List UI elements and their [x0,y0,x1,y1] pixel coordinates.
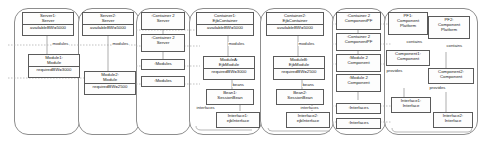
node-interface1-ejb[interactable]: Interface1: ejbInterface [216,112,260,128]
edge-label-modules-2: modules [112,42,129,46]
node-component1-line2: Component [387,57,429,62]
node-interface2-iface-line2: Interface [434,119,472,124]
node-module1[interactable]: Module1: Module requiredBW=3000 [28,54,80,78]
node-container-pf-a-line2: ComponentPF [337,19,380,24]
node-moduleB[interactable]: ModuleB: EjbModule requiredBW=2500 [273,56,325,80]
node-interface2-iface[interactable]: Interface2: Interface [433,112,473,128]
node-container-pf-b-line2: ComponentPF [337,40,380,45]
edge-label-beans-2: beans [302,83,314,87]
node-bean2[interactable]: Bean2: SessionBean [276,89,324,105]
node-interfaces-a-label: :Interfaces [337,106,380,111]
node-bean1[interactable]: Bean1: SessionBean [206,89,254,105]
node-module-comp-a[interactable]: :Module 2 Component [336,54,381,72]
node-moduleA-attr: requiredBW=3000 [204,68,254,75]
node-interface2-ejb-line2: ejbInterface [287,119,329,124]
node-pf2[interactable]: PF2: Component Platform [428,16,470,39]
node-module1-attr: requiredBW=3000 [29,66,79,73]
node-module2-attr: requiredBW=2500 [85,83,135,90]
node-module2[interactable]: Module2: Module requiredBW=2500 [84,71,136,95]
node-server1-attr: availableBW=5000 [23,24,73,31]
edge-label-modules-3: modules [228,42,245,46]
node-interface1-ejb-line2: ejbInterface [217,119,259,124]
node-container-server-a-line2: Server [142,19,184,24]
node-module-comp-a-line2: Component [337,61,380,66]
edge-label-provides-1: provides [386,69,403,73]
uml-diagram-canvas: Server1: Server availableBW=5000 modules… [0,0,489,143]
node-bean2-line2: SessionBean [277,96,323,101]
node-interface1-iface[interactable]: Interface1: Interface [391,97,431,113]
node-interface1-iface-line2: Interface [392,104,430,109]
node-container1[interactable]: Container1: EjbContainer availableBW=500… [196,12,254,36]
node-container-server-b-line2: Server [142,41,184,46]
node-container2[interactable]: Container2: EjbContainer availableBW=500… [266,12,324,36]
edge-label-contains-1: contains [406,40,423,44]
node-container2-attr: availableBW=5000 [267,24,323,31]
node-pf1[interactable]: PF1: Component Platform [388,12,428,35]
edge-label-beans-1: beans [232,83,244,87]
node-interfaces-b[interactable]: :Interfaces [336,118,381,129]
node-server2[interactable]: Server2: Server availableBW=5000 [82,12,134,36]
node-pf1-line3: Platform [389,24,427,29]
edge-label-modules-4: modules [298,42,315,46]
node-modules-box-b[interactable]: :Modules [141,76,185,87]
edge-label-provides-2: provides [429,86,446,90]
node-component2[interactable]: Component2: Component [428,68,474,84]
node-moduleA[interactable]: ModuleA: EjbModule requiredBW=3000 [203,56,255,80]
edge-label-modules-1: modules [52,42,69,46]
node-module-comp-b-line2: Component [337,81,380,86]
node-container1-attr: availableBW=5000 [197,24,253,31]
node-modules-box-a-label: :Modules [142,62,184,67]
node-server1[interactable]: Server1: Server availableBW=5000 [22,12,74,36]
node-pf2-line3: Platform [429,28,469,33]
node-interfaces-b-label: :Interfaces [337,121,380,126]
node-interface2-ejb[interactable]: Interface2: ejbInterface [286,112,330,128]
edge-label-contains-2: contains [446,44,463,48]
edge-label-interfaces-2: interfaces [300,106,319,110]
node-component2-line2: Component [429,75,473,80]
node-modules-box-a[interactable]: :Modules [141,59,185,70]
node-bean1-line2: SessionBean [207,96,253,101]
node-interfaces-a[interactable]: :Interfaces [336,103,381,114]
node-server2-attr: availableBW=5000 [83,24,133,31]
node-container-pf-b[interactable]: :Container 2 ComponentPF [336,33,381,51]
node-module-comp-b[interactable]: :Module 2 Component [336,74,381,92]
edge-label-interfaces-1: interfaces [196,106,215,110]
node-container-server-a[interactable]: :Container 2 Server [141,12,185,30]
node-container-server-b[interactable]: :Container 2 Server [141,34,185,52]
node-modules-box-b-label: :Modules [142,79,184,84]
node-component1[interactable]: Component1: Component [386,50,430,66]
node-container-pf-a[interactable]: :Container 2 ComponentPF [336,12,381,30]
node-moduleB-attr: requiredBW=2500 [274,68,324,75]
